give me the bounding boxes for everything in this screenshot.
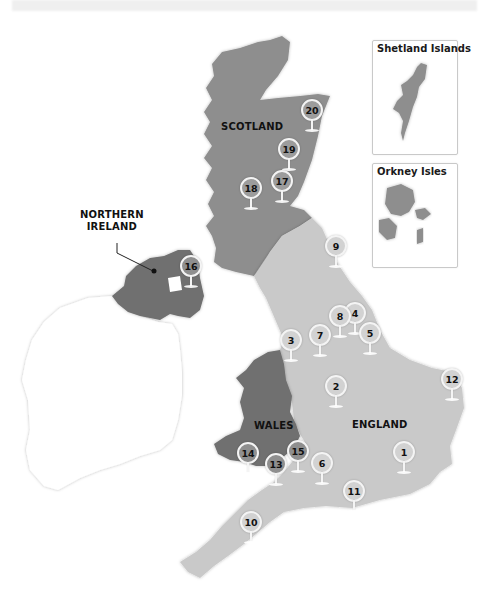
pin-number: 15 [287,440,309,462]
map-pin-8[interactable]: 8 [329,305,351,339]
map-pin-7[interactable]: 7 [309,324,331,358]
map-pin-17[interactable]: 17 [271,170,293,204]
map-pin-19[interactable]: 19 [278,138,300,172]
pin-number: 20 [301,99,323,121]
label-ni-line2: IRELAND [80,221,144,233]
pin-number: 16 [180,255,202,277]
pin-number: 18 [240,177,262,199]
inset-orkney: Orkney Isles [372,163,458,268]
map-pin-1[interactable]: 1 [393,441,415,475]
label-wales: WALES [254,420,294,432]
pin-number: 19 [278,138,300,160]
england-region [180,218,464,578]
map-pin-5[interactable]: 5 [359,322,381,356]
map-pin-9[interactable]: 9 [325,235,347,269]
pin-number: 8 [329,305,351,327]
ni-leader-dot [152,269,157,274]
label-scotland: SCOTLAND [221,121,283,133]
pin-number: 3 [280,329,302,351]
ireland-region [22,296,182,490]
map-pin-12[interactable]: 12 [441,368,463,402]
map-pin-6[interactable]: 6 [311,452,333,486]
map-pin-15[interactable]: 15 [287,440,309,474]
pin-number: 9 [325,235,347,257]
pin-number: 13 [265,453,287,475]
pin-number: 1 [393,441,415,463]
pin-number: 2 [325,375,347,397]
label-northern-ireland: NORTHERN IRELAND [80,209,144,233]
pin-number: 7 [309,324,331,346]
pin-number: 14 [237,442,259,464]
pin-number: 5 [359,322,381,344]
pin-number: 6 [311,452,333,474]
map-pin-18[interactable]: 18 [240,177,262,211]
map-pin-13[interactable]: 13 [265,453,287,487]
label-ni-line1: NORTHERN [80,209,144,221]
pin-number: 10 [240,511,262,533]
label-england: ENGLAND [352,419,408,431]
map-pin-2[interactable]: 2 [325,375,347,409]
orkney-shape [373,164,457,267]
map-pin-10[interactable]: 10 [240,511,262,545]
pin-number: 12 [441,368,463,390]
map-pin-16[interactable]: 16 [180,255,202,289]
map-pin-14[interactable]: 14 [237,442,259,476]
pin-number: 11 [343,480,365,502]
map-pin-3[interactable]: 3 [280,329,302,363]
inset-shetland: Shetland Islands [372,40,458,155]
map-pin-20[interactable]: 20 [301,99,323,133]
pin-number: 17 [271,170,293,192]
map-pin-11[interactable]: 11 [343,480,365,514]
shetland-shape [373,41,457,154]
